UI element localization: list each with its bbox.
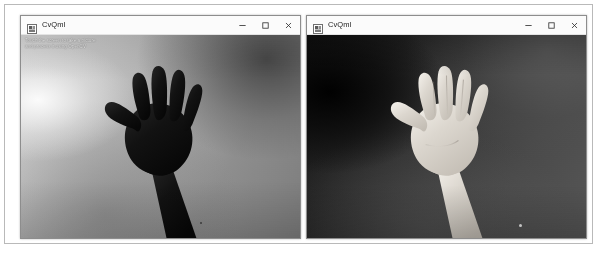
app-icon bbox=[313, 20, 323, 30]
titlebar-left[interactable]: CvQml bbox=[21, 16, 300, 35]
app-window-right[interactable]: CvQml bbox=[306, 15, 587, 239]
minimize-button[interactable] bbox=[517, 16, 540, 34]
maximize-button[interactable] bbox=[254, 16, 277, 34]
sensor-speck bbox=[200, 222, 202, 224]
preview-grain-right bbox=[307, 35, 586, 238]
minimize-button[interactable] bbox=[231, 16, 254, 34]
close-button[interactable] bbox=[277, 16, 300, 34]
page-frame: CvQml bbox=[4, 4, 593, 244]
maximize-button[interactable] bbox=[540, 16, 563, 34]
close-button[interactable] bbox=[563, 16, 586, 34]
window-title: CvQml bbox=[42, 21, 231, 29]
window-controls-left bbox=[231, 16, 300, 34]
titlebar-right[interactable]: CvQml bbox=[307, 16, 586, 35]
window-controls-right bbox=[517, 16, 586, 34]
camera-preview-left[interactable]: Touch the screen to take a picture and p… bbox=[21, 35, 300, 238]
preview-grain-left bbox=[21, 35, 300, 238]
window-title: CvQml bbox=[328, 21, 517, 29]
windows-row: CvQml bbox=[20, 15, 587, 239]
camera-preview-right[interactable] bbox=[307, 35, 586, 238]
app-window-left[interactable]: CvQml bbox=[20, 15, 301, 239]
app-icon bbox=[27, 20, 37, 30]
sensor-speck bbox=[519, 224, 522, 227]
